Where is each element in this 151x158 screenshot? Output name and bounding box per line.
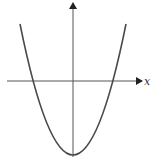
parabola-graph: x	[0, 0, 151, 158]
x-axis-label: x	[144, 75, 151, 88]
